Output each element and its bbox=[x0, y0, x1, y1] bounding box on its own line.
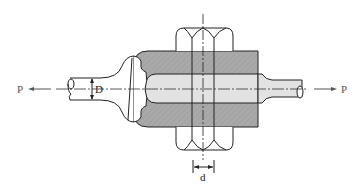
load-left-label: P bbox=[17, 83, 23, 95]
load-arrow-left: P bbox=[17, 83, 51, 95]
right-rod bbox=[258, 74, 303, 103]
rod-diameter-label: D bbox=[95, 83, 103, 95]
load-right-label: P bbox=[341, 83, 347, 95]
load-arrow-right: P bbox=[314, 83, 347, 95]
pin-diameter-label: d bbox=[200, 171, 206, 183]
pin-diameter-dimension: d bbox=[193, 160, 214, 183]
pin-joint-diagram: D d P P bbox=[0, 0, 362, 195]
